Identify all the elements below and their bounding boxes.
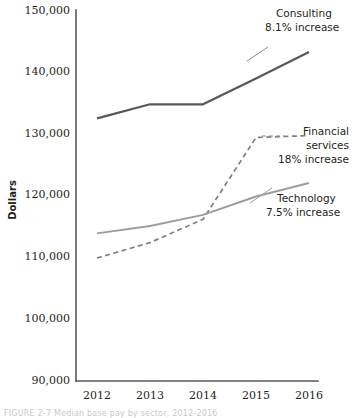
x-axis-tick-labels: 2012 2013 2014 2015 2016 xyxy=(83,389,323,402)
y-tick-120000: 120,000 xyxy=(25,188,71,201)
annotation-technology: Technology 7.5% increase xyxy=(266,192,340,218)
y-tick-150000: 150,000 xyxy=(25,4,71,17)
figure-caption: FIGURE 2-7 Median base pay by sector, 20… xyxy=(4,409,218,418)
annotation-consulting-title: Consulting xyxy=(276,7,332,19)
y-tick-90000: 90,000 xyxy=(32,374,71,387)
y-tick-100000: 100,000 xyxy=(25,312,71,325)
annotation-consulting: Consulting 8.1% increase xyxy=(265,7,339,33)
y-tick-140000: 140,000 xyxy=(25,65,71,78)
x-tick-2014: 2014 xyxy=(189,389,217,402)
x-tick-2012: 2012 xyxy=(83,389,111,402)
leader-technology xyxy=(250,188,272,203)
y-tick-110000: 110,000 xyxy=(25,250,71,263)
y-tick-130000: 130,000 xyxy=(25,127,71,140)
x-tick-2013: 2013 xyxy=(136,389,164,402)
annotation-technology-change: 7.5% increase xyxy=(266,206,340,218)
annotation-consulting-change: 8.1% increase xyxy=(265,21,339,33)
leader-consulting xyxy=(247,47,268,61)
annotation-financial-title-2: services xyxy=(306,139,349,151)
annotation-technology-title: Technology xyxy=(276,192,336,204)
series-line-consulting xyxy=(97,52,309,118)
annotation-financial-services: Financial services 18% increase xyxy=(278,125,349,165)
annotation-financial-change: 18% increase xyxy=(278,153,349,165)
annotation-financial-title-1: Financial xyxy=(303,125,349,137)
y-axis-title: Dollars xyxy=(7,180,18,220)
x-tick-2016: 2016 xyxy=(295,389,323,402)
x-tick-2015: 2015 xyxy=(242,389,270,402)
y-axis-tick-labels: 150,000 140,000 130,000 120,000 110,000 … xyxy=(25,4,71,387)
annotation-leader-lines xyxy=(247,47,285,203)
